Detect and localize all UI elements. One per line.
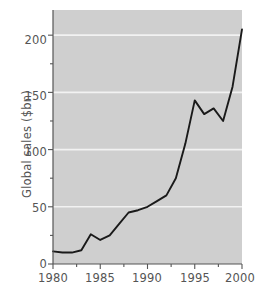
x-tick-label-1985: 1985 [85, 271, 115, 285]
x-tick-label-2000: 2000 [225, 271, 255, 285]
y-tick-label-200: 200 [15, 33, 47, 47]
y-tick-label-0: 0 [22, 257, 47, 271]
y-axis-label: Global sales ($bn) [20, 59, 34, 229]
plot-area-background [53, 10, 242, 264]
x-tick-label-1980: 1980 [38, 271, 68, 285]
x-tick-label-1990: 1990 [132, 271, 162, 285]
x-tick-label-1995: 1995 [180, 271, 210, 285]
chart-figure: 0 50 100 150 200 1980 1985 1990 1995 200… [0, 0, 264, 301]
